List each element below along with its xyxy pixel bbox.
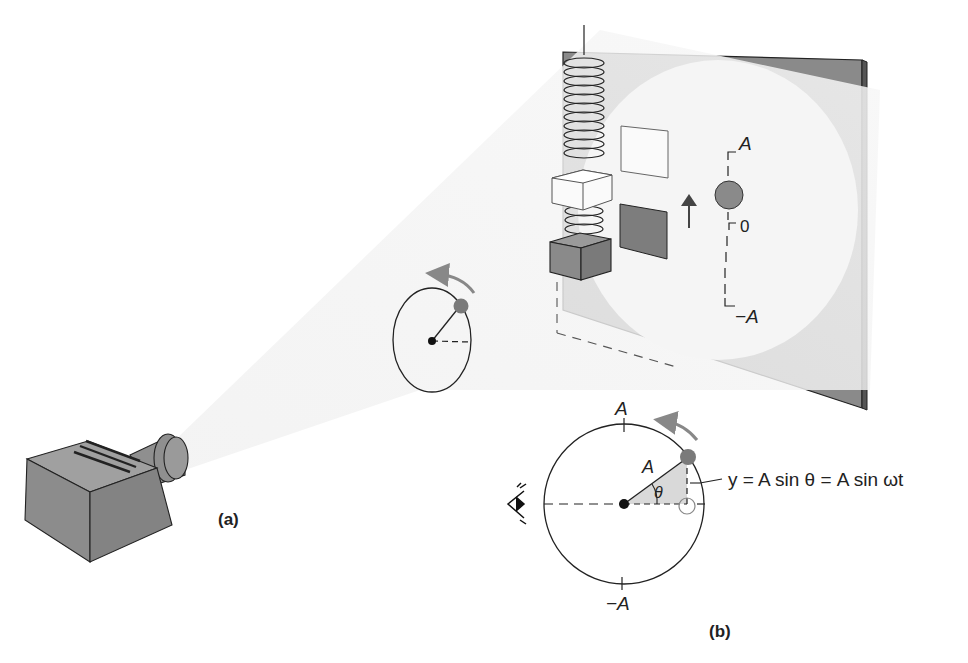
equation: y = A sin θ = A sin ωt [728, 469, 904, 490]
radius-label: A [641, 457, 654, 477]
projected-ball [715, 181, 743, 209]
shadow-top-position [621, 126, 668, 178]
panel-b-label: (b) [709, 622, 731, 641]
mass-block [550, 233, 611, 280]
circle-label-bottom: −A [606, 593, 630, 614]
panel-a-label: (a) [218, 510, 239, 529]
rotation-arrow-icon [665, 421, 697, 440]
shm-diagram: A 0 −A (a) [0, 0, 968, 663]
screen-label-bottom: −A [735, 306, 759, 327]
circle-label-top: A [614, 398, 628, 419]
projector [25, 434, 188, 562]
eye-icon [508, 483, 526, 524]
screen-label-zero: 0 [740, 217, 749, 236]
screen-label-top: A [738, 133, 752, 154]
light-beam [170, 30, 880, 470]
angle-label: θ [654, 484, 663, 501]
reference-circle [544, 418, 722, 590]
